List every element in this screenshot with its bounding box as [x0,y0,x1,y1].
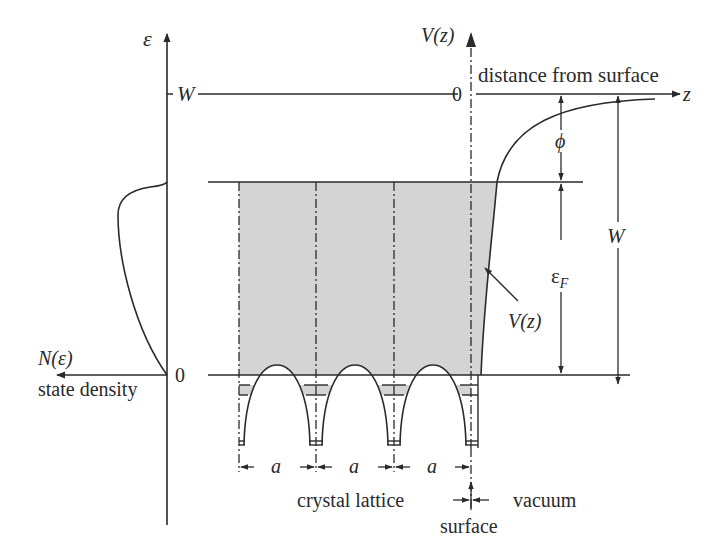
state-density-label: state density [38,378,137,401]
state-density-curve [118,182,167,375]
surface-marker [453,482,489,510]
zero-bottom-label: 0 [175,364,185,386]
atom-core-1 [244,365,310,445]
surface-label: surface [440,515,498,537]
potential-curve [481,99,655,375]
potential-axis-label: V(z) [421,24,455,47]
distance-label: distance from surface [478,63,659,87]
potential-pointer [485,268,518,301]
diagram-svg: ε W V(z) distance from surface z 0 0 ϕ W… [0,0,715,558]
fermi-energy-label: εF [551,264,569,291]
w-arrow-label: W [607,224,627,248]
lattice-spacing-label-3: a [427,455,437,477]
lattice-wells [244,365,466,445]
crystal-lattice-label: crystal lattice [297,489,404,512]
potential-curve-label: V(z) [508,310,542,333]
energy-axis-label: ε [143,26,152,51]
z-axis-label: z [682,83,691,105]
fermi-sea-fill [239,182,497,375]
lattice-spacing-label-1: a [271,455,281,477]
atom-core-2 [322,365,388,445]
lattice-spacing-label-2: a [349,455,359,477]
atom-core-3 [400,365,466,445]
diagram-canvas: ε W V(z) distance from surface z 0 0 ϕ W… [0,0,715,558]
w-level-label: W [177,82,197,106]
vacuum-label: vacuum [513,489,577,511]
zero-top-label: 0 [452,83,462,105]
potential-axis-arrowhead [466,32,476,47]
phi-label: ϕ [555,130,565,153]
state-density-symbol: N(ε) [37,347,73,370]
